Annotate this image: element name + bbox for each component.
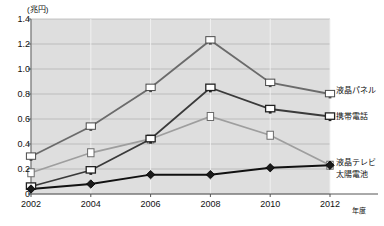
legend-item-4: 太陽電池 [336,168,368,179]
y-axis-tick-label: 0.4 [4,139,30,149]
data-point [86,123,95,131]
x-axis-tick-label: 2012 [310,199,350,209]
y-axis-tick-label: 0.8 [4,89,30,99]
y-axis-tick-label: 1.0 [4,64,30,74]
chart-container: (兆円) 00.20.40.60.81.01.21.4 200220042006… [0,0,384,226]
y-axis-tick-label: 1.4 [4,14,30,24]
y-axis-tick-labels: 00.20.40.60.81.01.21.4 [0,0,30,226]
x-axis-tick-label: 2002 [11,199,51,209]
data-point [266,105,275,113]
x-axis-tick-label: 2008 [190,199,230,209]
y-axis-tick-label: 0.2 [4,164,30,174]
legend-item-3: 携帯電話 [336,110,368,121]
data-point [206,37,215,45]
x-axis-tick-label: 2006 [131,199,171,209]
data-point [325,90,334,98]
data-point [325,113,334,121]
x-axis-tick-label: 2010 [250,199,290,209]
chart-plot-area [0,0,384,226]
legend-item-2: 液晶テレビ [336,156,376,167]
data-point [146,135,155,143]
y-axis-tick-label: 0 [4,189,30,199]
x-axis-unit-label: 年度 [352,205,366,215]
data-point [146,84,155,92]
x-axis-tick-label: 2004 [71,199,111,209]
legend-item-1: 液晶パネル [336,84,376,95]
data-point [206,84,215,92]
data-point [88,149,94,157]
data-point [207,113,213,121]
data-point [267,131,273,139]
y-axis-tick-label: 1.2 [4,39,30,49]
data-point [86,167,95,175]
data-point [266,79,275,87]
y-axis-tick-label: 0.6 [4,114,30,124]
